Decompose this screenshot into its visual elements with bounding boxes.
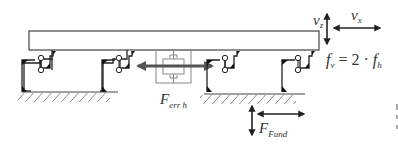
label-vx: vx — [351, 7, 362, 25]
hinge-1 — [38, 55, 43, 72]
diagram-canvas: Ferr h vz vx f — [0, 0, 398, 150]
ground-hatching-right — [200, 95, 296, 104]
label-vz: vz — [313, 12, 324, 30]
beam — [29, 31, 319, 50]
bracket-1 — [22, 51, 53, 92]
label-ffund: FFund — [258, 120, 288, 139]
hinge-3 — [222, 55, 227, 72]
label-frequency-relation: fv = 2 · fh — [326, 51, 382, 70]
label-ferr: Ferr h — [159, 91, 187, 110]
ground-hatching-left — [18, 93, 110, 102]
hinge-2 — [116, 55, 121, 72]
